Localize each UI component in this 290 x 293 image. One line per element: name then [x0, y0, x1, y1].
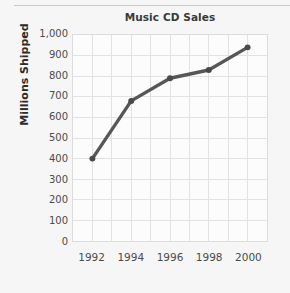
- chart-figure: Music CD Sales Millions Shipped 1,000900…: [0, 0, 290, 293]
- x-axis-tick-label: 1996: [148, 252, 192, 263]
- page-title: Music CD Sales: [60, 11, 280, 23]
- y-axis-tick-label: 800: [20, 71, 68, 81]
- plot-area: [72, 34, 268, 242]
- y-axis-tick-label: 200: [20, 195, 68, 205]
- x-axis-tick-label: 1994: [109, 252, 153, 263]
- data-point-marker: [245, 44, 251, 50]
- x-axis-tick-labels: 19921994199619982000: [70, 252, 270, 272]
- data-point-marker: [206, 67, 212, 73]
- y-axis-tick-label: 700: [20, 91, 68, 101]
- data-point-marker: [89, 156, 95, 162]
- y-axis-tick-label: 300: [20, 175, 68, 185]
- y-axis-tick-label: 500: [20, 133, 68, 143]
- x-axis-tick-label: 1998: [187, 252, 231, 263]
- line-chart-svg: [73, 35, 267, 241]
- top-divider: [14, 5, 290, 6]
- y-axis-tick-label: 900: [20, 50, 68, 60]
- y-axis-tick-labels: 1,0009008007006005004003002001000: [20, 28, 72, 248]
- y-axis-tick-label: 600: [20, 112, 68, 122]
- y-axis-tick-label: 100: [20, 216, 68, 226]
- data-point-marker: [128, 98, 134, 104]
- x-axis-tick-label: 1992: [70, 252, 114, 263]
- data-point-marker: [167, 75, 173, 81]
- x-axis-tick-label: 2000: [226, 252, 270, 263]
- y-axis-tick-label: 0: [20, 237, 68, 247]
- y-axis-tick-label: 1,000: [20, 29, 68, 39]
- y-axis-tick-label: 400: [20, 154, 68, 164]
